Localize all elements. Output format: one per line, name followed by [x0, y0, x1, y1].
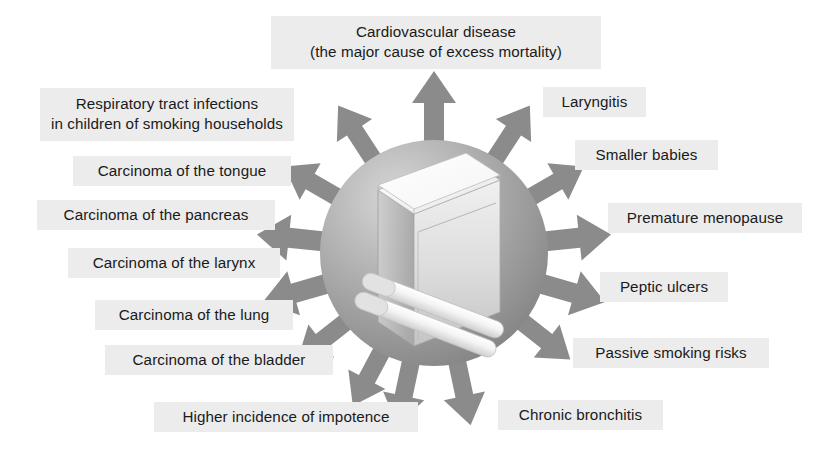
label-carcinoma-of-the-tongue: Carcinoma of the tongue	[73, 156, 291, 186]
label-carcinoma-of-the-lung: Carcinoma of the lung	[95, 300, 293, 330]
label-carcinoma-of-the-pancreas: Carcinoma of the pancreas	[37, 200, 275, 230]
label-cardiovascular-disease: Cardiovascular disease (the major cause …	[271, 16, 601, 69]
label-chronic-bronchitis: Chronic bronchitis	[498, 400, 663, 430]
label-higher-incidence-of-impotence: Higher incidence of impotence	[154, 402, 418, 432]
label-carcinoma-of-the-larynx: Carcinoma of the larynx	[68, 248, 280, 278]
arrow-cardiovascular-disease	[412, 71, 456, 143]
diagram-canvas: Cardiovascular disease (the major cause …	[0, 0, 831, 455]
label-passive-smoking-risks: Passive smoking risks	[573, 338, 769, 368]
label-carcinoma-of-the-bladder: Carcinoma of the bladder	[105, 345, 333, 375]
label-premature-menopause: Premature menopause	[608, 203, 802, 233]
label-respiratory-tract-infections: Respiratory tract infections in children…	[40, 88, 294, 141]
label-laryngitis: Laryngitis	[543, 87, 646, 117]
label-peptic-ulcers: Peptic ulcers	[600, 272, 728, 302]
label-smaller-babies: Smaller babies	[575, 140, 718, 170]
